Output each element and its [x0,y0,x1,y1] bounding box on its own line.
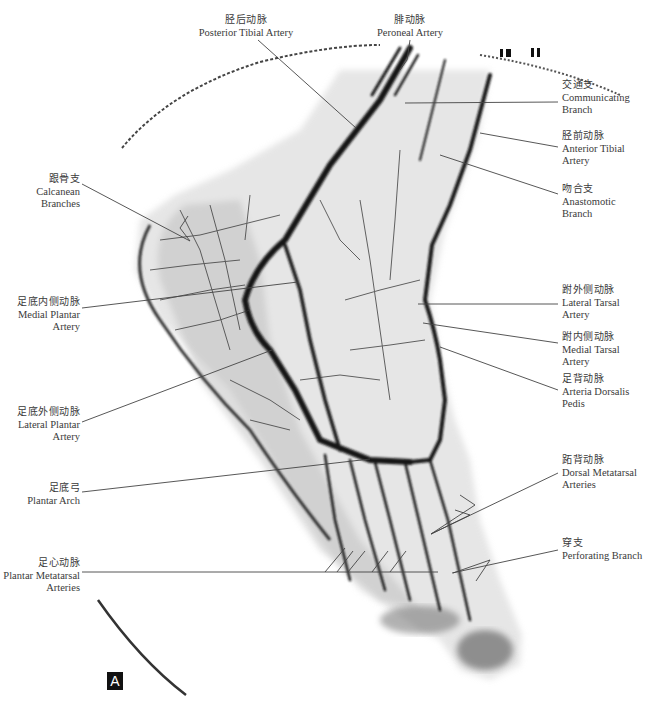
label-lateral-plantar-artery: 足底外侧动脉Lateral PlantarArtery [0,406,80,444]
label-anastomotic-branch: 吻合支AnastomoticBranch [562,183,616,221]
label-english: Lateral Plantar [0,419,80,432]
label-chinese: 胫后动脉 [176,14,316,27]
label-dorsal-metatarsal-arteries: 跖背动脉Dorsal MetatarsalArteries [562,454,637,492]
label-chinese: 足心动脉 [0,557,80,570]
label-english: Perforating Branch [562,550,642,563]
label-english: Arteries [562,479,637,492]
label-chinese: 足底弓 [0,482,80,495]
label-chinese: 跟骨支 [0,173,80,186]
label-peroneal-artery: 腓动脉Peroneal Artery [340,14,480,39]
label-plantar-metatarsal-arteries: 足心动脉Plantar MetatarsalArteries [0,557,80,595]
label-english: Anastomotic [562,196,616,209]
label-english: Medial Plantar [0,309,80,322]
label-chinese: 跗内侧动脉 [562,331,620,344]
label-english: Peroneal Artery [340,27,480,40]
label-english: Dorsal Metatarsal [562,467,637,480]
label-english: Artery [0,431,80,444]
label-chinese: 胫前动脉 [562,130,625,143]
label-english: Branches [0,198,80,211]
label-chinese: 交通支 [562,79,630,92]
label-arteria-dorsalis-pedis: 足背动脉Arteria DorsalisPedis [562,373,629,411]
label-english: Artery [562,155,625,168]
label-perforating-branch: 穿支Perforating Branch [562,537,642,562]
label-english: Communicating [562,92,630,105]
panel-label-badge: A [107,672,123,690]
label-english: Medial Tarsal [562,344,620,357]
label-english: Lateral Tarsal [562,297,620,310]
label-chinese: 穿支 [562,537,642,550]
label-chinese: 足背动脉 [562,373,629,386]
leader-line-medial-tarsal-artery [423,323,558,343]
label-english: Branch [562,104,630,117]
label-chinese: 跖背动脉 [562,454,637,467]
label-english: Anterior Tibial [562,143,625,156]
foot-angiogram-image [0,0,649,708]
label-chinese: 吻合支 [562,183,616,196]
leader-line-anterior-tibial-artery [480,133,558,147]
label-english: Arteries [0,582,80,595]
ruler-marks [500,48,540,57]
label-english: Branch [562,208,616,221]
leader-line-arteria-dorsalis-pedis [440,347,558,390]
label-anterior-tibial-artery: 胫前动脉Anterior TibialArtery [562,130,625,168]
label-chinese: 足底外侧动脉 [0,406,80,419]
label-chinese: 足底内侧动脉 [0,296,80,309]
label-chinese: 腓动脉 [340,14,480,27]
label-medial-tarsal-artery: 跗内侧动脉Medial TarsalArtery [562,331,620,369]
label-calcanean-branches: 跟骨支CalcaneanBranches [0,173,80,211]
label-chinese: 跗外侧动脉 [562,284,620,297]
label-lateral-tarsal-artery: 跗外侧动脉Lateral TarsalArtery [562,284,620,322]
label-communicating-branch: 交通支CommunicatingBranch [562,79,630,117]
label-posterior-tibial-artery: 胫后动脉Posterior Tibial Artery [176,14,316,39]
label-english: Artery [0,321,80,334]
label-english: Artery [562,309,620,322]
label-english: Posterior Tibial Artery [176,27,316,40]
label-english: Arteria Dorsalis [562,386,629,399]
label-plantar-arch: 足底弓Plantar Arch [0,482,80,507]
label-english: Calcanean [0,186,80,199]
label-english: Artery [562,356,620,369]
angiogram-figure: 胫后动脉Posterior Tibial Artery腓动脉Peroneal A… [0,0,649,708]
label-medial-plantar-artery: 足底内侧动脉Medial PlantarArtery [0,296,80,334]
label-english: Plantar Metatarsal [0,570,80,583]
label-english: Plantar Arch [0,495,80,508]
label-english: Pedis [562,398,629,411]
